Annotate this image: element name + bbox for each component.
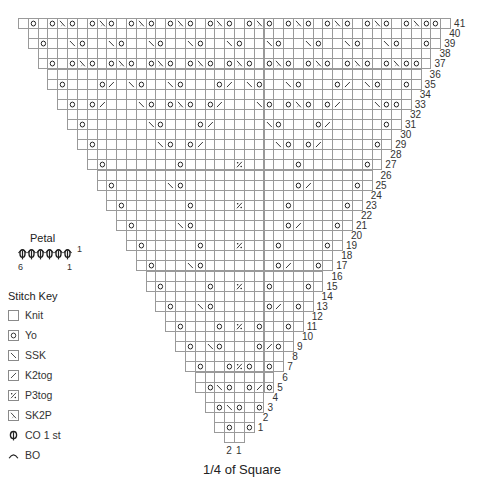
stitch-key-label: BO [25,449,40,461]
chart-cell [273,361,284,372]
co1-icon [45,248,54,260]
row-number: 6 [282,373,288,383]
petal-left-label: 6 [18,262,23,272]
co1-icon [27,248,36,260]
stitch-key-item-bo: BO [8,449,40,461]
bo-icon [8,450,19,461]
row-number: 4 [273,393,279,403]
row-number: 10 [302,332,313,342]
stitch-key-title: Stitch Key [8,290,58,302]
stitch-key-item-co1: CO 1 st [8,429,61,441]
row-number: 36 [430,70,441,80]
chart-cell [421,58,432,69]
co1-icon [63,248,72,260]
co1-icon [8,430,19,441]
stitch-key-label: SK2P [25,409,52,421]
stitch-key-label: P3tog [25,389,52,401]
stitch-key-label: Yo [25,329,37,341]
stitch-key-item-ssk: SSK [8,349,46,361]
k2tog-icon [8,370,19,381]
co1-icon [36,248,45,260]
stitch-key-label: SSK [25,349,46,361]
row-number: 16 [331,272,342,282]
stitch-key-item-knit: Knit [8,309,43,321]
stitch-key-label: Knit [25,309,43,321]
stitch-key-label: K2tog [25,369,52,381]
stitch-key-item-sk2p: SK2P [8,409,52,421]
row-number: 5 [277,383,283,393]
row-number: 7 [287,362,293,372]
petal-row-label: 1 [77,244,82,254]
column-number: 2 [226,445,232,456]
knit-icon [8,310,19,321]
ssk-icon [8,350,19,361]
petal-chart [18,248,72,260]
chart-cell [372,159,383,170]
stitch-key-item-k2tog: K2tog [8,369,52,381]
row-number: 17 [336,261,347,271]
row-number: 27 [385,160,396,170]
knitting-chart: 4140393837363534333231302928272625242322… [0,0,484,498]
stitch-key-item-p3tog: P3tog [8,389,52,401]
row-number: 26 [381,171,392,181]
p3tog-icon [8,390,19,401]
row-number: 1 [258,423,264,433]
stitch-key-label: CO 1 st [25,429,61,441]
petal-title: Petal [30,232,55,244]
row-number: 2 [263,413,269,423]
co1-icon [54,248,63,260]
column-number: 1 [236,445,242,456]
yo-icon [8,330,19,341]
row-number: 37 [434,59,445,69]
co1-icon [18,248,27,260]
chart-caption: 1/4 of Square [0,462,484,477]
chart-cell [244,422,255,433]
chart-cell [322,260,333,271]
row-number: 3 [268,403,274,413]
stitch-key-item-yo: Yo [8,329,37,341]
chart-cell [234,432,245,443]
petal-right-label: 1 [67,262,72,272]
sk2p-icon [8,410,19,421]
